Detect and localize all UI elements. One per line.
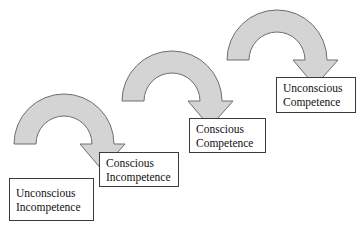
stage-box-unconscious-incompetence: Unconscious Incompetence [9, 178, 94, 221]
arrow-stage3-to-stage4 [227, 10, 338, 86]
arrow-stage2-to-stage3 [122, 51, 233, 127]
stage-label-line1: Conscious [106, 156, 154, 170]
stage-label-line2: Incompetence [16, 200, 81, 214]
competence-stages-diagram: Unconscious Incompetence Conscious Incom… [0, 0, 361, 230]
stage-label-line2: Competence [196, 136, 253, 150]
stage-label-line2: Competence [283, 95, 340, 109]
stage-box-conscious-competence: Conscious Competence [189, 118, 266, 153]
stage-label-line2: Incompetence [106, 170, 171, 184]
stage-label-line1: Conscious [196, 122, 244, 136]
stage-label-line1: Unconscious [283, 81, 342, 95]
stage-box-unconscious-competence: Unconscious Competence [276, 77, 356, 113]
stage-box-conscious-incompetence: Conscious Incompetence [99, 152, 179, 187]
stage-label-line1: Unconscious [16, 186, 75, 200]
